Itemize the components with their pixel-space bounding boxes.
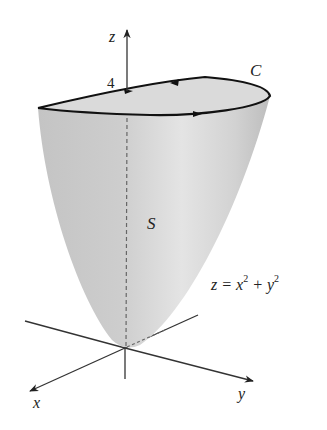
y-axis-label: y: [238, 386, 245, 402]
exponent-x: 2: [243, 273, 248, 284]
x-axis-label: x: [33, 395, 40, 411]
diagram-canvas: [0, 0, 327, 430]
paraboloid-figure: z 4 C S z = x2 + y2 x y: [0, 0, 327, 430]
surface-label: S: [147, 215, 156, 232]
x-axis: [30, 348, 125, 391]
height-tick-label: 4: [107, 76, 115, 91]
equation-lhs: z = x: [211, 276, 243, 293]
z-axis-label: z: [109, 29, 115, 45]
exponent-y: 2: [274, 273, 279, 284]
y-axis: [125, 348, 253, 381]
curve-label: C: [250, 62, 261, 79]
equation-label: z = x2 + y2: [211, 276, 279, 293]
equation-mid: + y: [248, 276, 274, 293]
